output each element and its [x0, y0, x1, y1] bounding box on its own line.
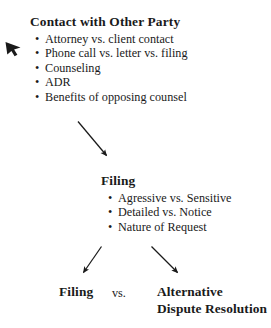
contact-block-heading: Contact with Other Party: [30, 14, 245, 29]
list-item-label: Attorney vs. client contact: [45, 32, 174, 46]
list-item-label: Detailed vs. Notice: [118, 205, 212, 219]
list-item-label: Benefits of opposing counsel: [45, 90, 187, 104]
bullet-icon: •: [108, 205, 112, 219]
slide-canvas: Contact with Other Party • Attorney vs. …: [0, 0, 271, 328]
list-item-label: Nature of Request: [118, 220, 207, 234]
list-item-label: Agressive vs. Sensitive: [118, 191, 231, 205]
bullet-icon: •: [108, 191, 112, 205]
list-item-label: ADR: [45, 75, 71, 89]
arrow-filing-to-left: [84, 247, 102, 273]
list-item: • Detailed vs. Notice: [105, 205, 266, 219]
comparison-separator: vs.: [112, 285, 126, 301]
filing-block-heading: Filing: [101, 173, 266, 188]
list-item: • Counseling: [32, 61, 245, 75]
bullet-icon: •: [35, 32, 39, 46]
filing-block-list: • Agressive vs. Sensitive • Detailed vs.…: [105, 191, 266, 234]
list-item: • Agressive vs. Sensitive: [105, 191, 266, 205]
bullet-icon: •: [108, 220, 112, 234]
bullet-icon: •: [35, 75, 39, 89]
list-item: • Benefits of opposing counsel: [32, 90, 245, 104]
bullet-icon: •: [35, 61, 39, 75]
comparison-left-label: Filing: [59, 284, 93, 300]
list-item: • ADR: [32, 75, 245, 89]
arrow-contact-to-filing: [78, 122, 107, 156]
comparison-row: Filing vs. Alternative Dispute Resolutio…: [0, 284, 271, 324]
filing-block: Filing • Agressive vs. Sensitive • Detai…: [101, 173, 266, 234]
list-item: • Phone call vs. letter vs. filing: [32, 46, 245, 60]
contact-block: Contact with Other Party • Attorney vs. …: [30, 14, 245, 104]
list-item-label: Counseling: [45, 61, 101, 75]
list-item: • Attorney vs. client contact: [32, 32, 245, 46]
list-item-label: Phone call vs. letter vs. filing: [45, 46, 188, 60]
comparison-right-label: Alternative Dispute Resolution: [157, 284, 269, 317]
arrow-filing-to-right: [152, 247, 178, 273]
bullet-icon: •: [35, 46, 39, 60]
contact-block-list: • Attorney vs. client contact • Phone ca…: [32, 32, 245, 104]
cursor-arrow-marker: [6, 42, 21, 56]
list-item: • Nature of Request: [105, 220, 266, 234]
bullet-icon: •: [35, 90, 39, 104]
